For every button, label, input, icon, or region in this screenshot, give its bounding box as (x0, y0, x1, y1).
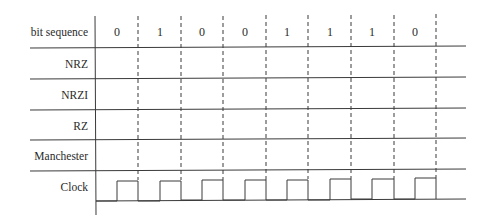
row-label-clock: Clock (61, 180, 88, 194)
bit-value: 1 (309, 25, 351, 39)
bit-value: 0 (181, 25, 223, 39)
row-label-bit-sequence: bit sequence (31, 25, 88, 39)
row-label-nrzi: NRZI (61, 88, 88, 102)
bit-value: 0 (394, 25, 436, 39)
row-label-manchester: Manchester (34, 149, 88, 163)
bit-value: 0 (96, 25, 138, 39)
bit-value: 0 (224, 25, 266, 39)
bit-value: 1 (351, 25, 393, 39)
row-label-rz: RZ (73, 119, 88, 133)
bit-value: 1 (266, 25, 308, 39)
row-label-nrz: NRZ (65, 57, 88, 71)
clock-waveform (96, 178, 436, 201)
bit-value: 1 (139, 25, 181, 39)
label-divider (95, 16, 96, 215)
